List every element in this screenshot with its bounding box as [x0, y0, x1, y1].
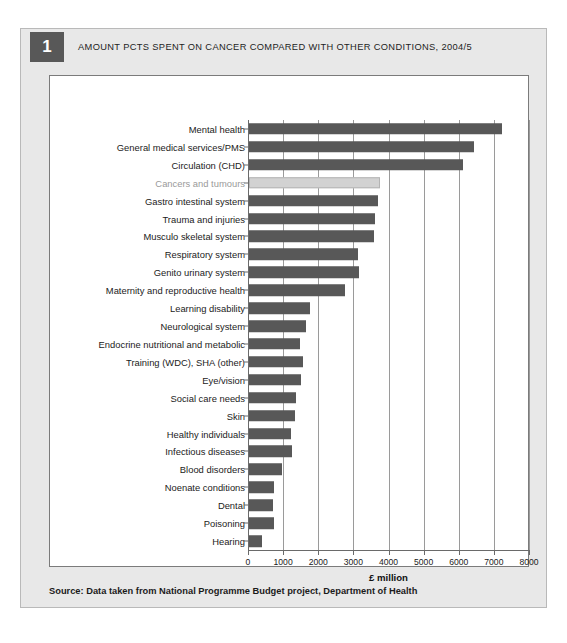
chart-plot-area: Mental healthGeneral medical services/PM…: [50, 76, 528, 566]
chart-bar-row: Social care needs: [50, 389, 528, 407]
bar-category-label: Learning disability: [170, 303, 245, 314]
bar-category-label: Endocrine nutritional and metabolic: [99, 338, 245, 349]
chart-bar-row: Training (WDC), SHA (other): [50, 353, 528, 371]
x-tick-3000: [353, 550, 354, 555]
y-tick: [244, 254, 248, 255]
y-tick: [244, 128, 248, 129]
chart-bar-row: Endocrine nutritional and metabolic: [50, 335, 528, 353]
x-tick-4000: [389, 550, 390, 555]
chart-bar: [249, 177, 380, 189]
x-tick-7000: [494, 550, 495, 555]
chart-bar-row: Mental health: [50, 120, 528, 138]
y-tick: [244, 200, 248, 201]
figure-header: 1 AMOUNT PCTS SPENT ON CANCER COMPARED W…: [21, 29, 546, 65]
chart-bar: [249, 392, 296, 404]
bar-category-label: Neurological system: [161, 321, 245, 332]
chart-x-axis-title: £ million: [248, 572, 529, 583]
chart-bar: [249, 159, 463, 171]
figure-number-badge: 1: [30, 32, 64, 62]
bar-category-label: Dental: [218, 500, 245, 511]
bar-category-label: Blood disorders: [180, 464, 245, 475]
chart-bar-row: Blood disorders: [50, 460, 528, 478]
chart-bar: [249, 428, 291, 440]
y-tick: [244, 451, 248, 452]
y-tick: [244, 505, 248, 506]
y-tick: [244, 236, 248, 237]
y-tick: [244, 326, 248, 327]
figure-card: 1 AMOUNT PCTS SPENT ON CANCER COMPARED W…: [20, 28, 547, 608]
y-tick: [244, 523, 248, 524]
bar-category-label: Noenate conditions: [165, 482, 245, 493]
y-tick: [244, 379, 248, 380]
bar-category-label: Circulation (CHD): [172, 159, 245, 170]
y-tick: [244, 308, 248, 309]
bar-category-label: Cancers and tumours: [155, 177, 245, 188]
bar-category-label: Healthy individuals: [167, 428, 245, 439]
chart-bar: [249, 249, 358, 261]
chart-bar: [249, 213, 375, 225]
x-tick-label-1000: 1000: [274, 557, 293, 567]
chart-bar-row: Respiratory system: [50, 245, 528, 263]
bar-category-label: Mental health: [189, 123, 245, 134]
chart-bar: [249, 302, 310, 314]
chart-bar: [249, 482, 274, 494]
x-tick-label-0: 0: [246, 557, 251, 567]
chart-bar: [249, 338, 300, 350]
chart-bar: [249, 231, 374, 243]
y-tick: [244, 469, 248, 470]
chart-bar-row: Dental: [50, 496, 528, 514]
bar-category-label: Gastro intestinal system: [145, 195, 245, 206]
chart-bar-row: Circulation (CHD): [50, 156, 528, 174]
chart-bar: [249, 374, 301, 386]
x-tick-5000: [424, 550, 425, 555]
bar-category-label: Eye/vision: [202, 374, 245, 385]
bar-category-label: Skin: [227, 410, 245, 421]
bar-category-label: Training (WDC), SHA (other): [126, 356, 245, 367]
chart-bar: [249, 446, 292, 458]
chart-bar: [249, 320, 306, 332]
x-tick-label-5000: 5000: [414, 557, 433, 567]
y-tick: [244, 541, 248, 542]
chart-bar: [249, 141, 474, 153]
x-tick-8000: [529, 550, 530, 555]
chart-bar-row: Maternity and reproductive health: [50, 281, 528, 299]
chart-bar: [249, 499, 273, 511]
x-tick-1000: [283, 550, 284, 555]
x-tick-label-2000: 2000: [309, 557, 328, 567]
bar-category-label: Musculo skeletal system: [143, 231, 245, 242]
chart-bar: [249, 123, 502, 135]
x-tick-label-7000: 7000: [484, 557, 503, 567]
chart-bar: [249, 410, 295, 422]
y-tick: [244, 415, 248, 416]
chart-bar-row: Neurological system: [50, 317, 528, 335]
chart-bar: [249, 195, 378, 207]
x-tick-2000: [318, 550, 319, 555]
y-tick: [244, 164, 248, 165]
y-tick: [244, 182, 248, 183]
bar-category-label: Trauma and injuries: [162, 213, 245, 224]
bar-category-label: General medical services/PMS: [117, 141, 245, 152]
bar-category-label: Poisoning: [204, 518, 245, 529]
x-tick-label-8000: 8000: [519, 557, 538, 567]
chart-bar-row: Genito urinary system: [50, 263, 528, 281]
chart-bar-row: Gastro intestinal system: [50, 192, 528, 210]
x-tick-0: [248, 550, 249, 555]
y-tick: [244, 290, 248, 291]
chart-bar-row: Skin: [50, 407, 528, 425]
x-tick-label-3000: 3000: [344, 557, 363, 567]
x-tick-label-4000: 4000: [379, 557, 398, 567]
bar-category-label: Infectious diseases: [165, 446, 245, 457]
y-tick: [244, 487, 248, 488]
chart-bar: [249, 284, 345, 296]
figure-title: AMOUNT PCTS SPENT ON CANCER COMPARED WIT…: [78, 42, 472, 52]
y-tick: [244, 343, 248, 344]
chart-bar-row: Cancers and tumours: [50, 174, 528, 192]
chart-bar: [249, 535, 262, 547]
gridline-8000: [529, 120, 530, 550]
chart-bar-row: Healthy individuals: [50, 425, 528, 443]
chart-plot-frame: Mental healthGeneral medical services/PM…: [49, 75, 529, 567]
y-tick: [244, 218, 248, 219]
chart-bar-row: Noenate conditions: [50, 478, 528, 496]
x-tick-6000: [459, 550, 460, 555]
chart-bar: [249, 267, 359, 279]
